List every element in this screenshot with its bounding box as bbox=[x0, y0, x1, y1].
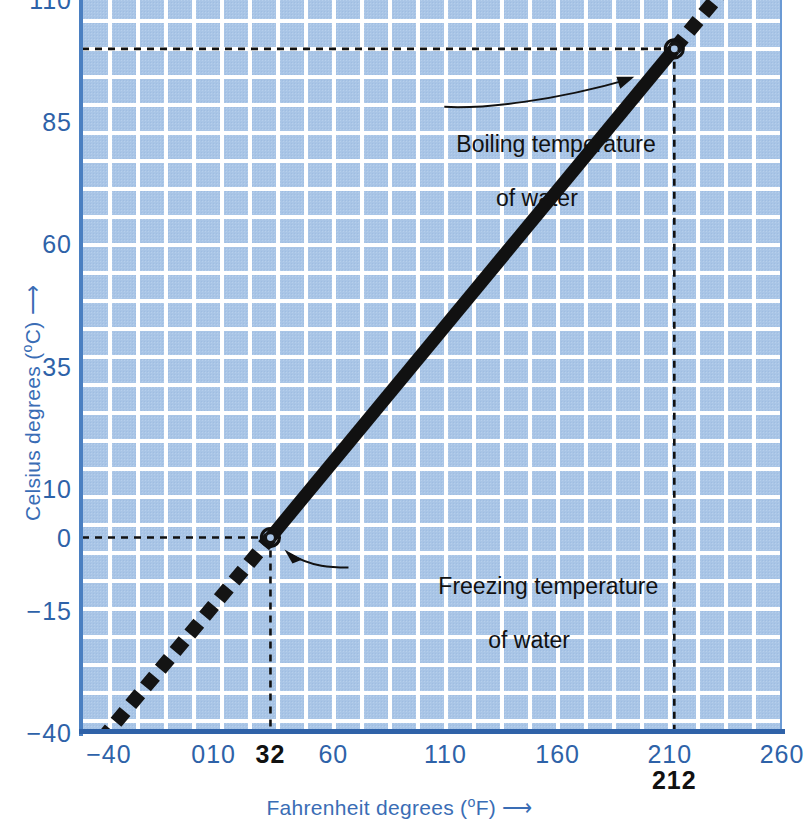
leader-boiling-arrowhead bbox=[616, 77, 634, 89]
x-axis-tick-10: 10 bbox=[206, 740, 236, 769]
annotation-freezing-line1: Freezing temperature bbox=[438, 573, 658, 599]
y-axis-title-tail: C) bbox=[21, 315, 44, 344]
plot-area: Boiling temperature of water Freezing te… bbox=[82, 0, 782, 733]
x-axis-unit-degree: o bbox=[467, 794, 475, 810]
x-axis-title: Fahrenheit degrees (oF) ⟶ bbox=[0, 794, 799, 820]
x-axis-tick-32: 32 bbox=[256, 740, 286, 769]
y-axis-line bbox=[79, 0, 83, 736]
marker-boiling-center bbox=[671, 45, 678, 52]
annotation-boiling: Boiling temperature of water bbox=[418, 104, 656, 267]
y-axis-title-text: Celsius degrees ( bbox=[21, 352, 44, 521]
x-axis-tick-0: 0 bbox=[191, 740, 206, 769]
annotation-freezing-line2: of water bbox=[400, 627, 658, 654]
x-axis-arrow-icon: ⟶ bbox=[502, 796, 532, 819]
y-axis-tick-neg40: −40 bbox=[0, 719, 72, 748]
y-axis-unit-degree: o bbox=[19, 344, 35, 352]
x-axis-tick-60: 60 bbox=[318, 740, 348, 769]
x-axis-tick-160: 160 bbox=[535, 740, 580, 769]
y-axis-tick-neg15: −15 bbox=[0, 596, 72, 625]
x-axis-tick-below-212: 212 bbox=[652, 766, 697, 795]
marker-freezing-center bbox=[267, 534, 274, 541]
annotation-freezing: Freezing temperature of water bbox=[400, 546, 658, 709]
x-axis-title-tail: F) bbox=[476, 796, 503, 819]
x-axis-title-text: Fahrenheit degrees ( bbox=[266, 796, 467, 819]
y-axis-tick-110: 110 bbox=[0, 0, 72, 15]
y-axis-tick-85: 85 bbox=[0, 108, 72, 137]
x-axis-tick-260: 260 bbox=[760, 740, 804, 769]
x-axis-line bbox=[79, 729, 785, 734]
x-axis-tick-210: 210 bbox=[647, 740, 692, 769]
annotation-boiling-line1: Boiling temperature bbox=[456, 131, 655, 157]
y-axis-title: Celsius degrees (oC) ⟶ bbox=[19, 253, 45, 553]
annotation-boiling-line2: of water bbox=[418, 185, 656, 212]
series-extrapolated-low bbox=[86, 538, 270, 733]
plot-right-edge bbox=[780, 0, 782, 733]
y-axis-arrow-icon: ⟶ bbox=[21, 285, 44, 315]
leader-freezing-arrowhead bbox=[284, 550, 302, 564]
x-axis-tick-110: 110 bbox=[424, 740, 467, 769]
leader-boiling bbox=[444, 79, 630, 107]
x-axis-tick-neg40: −40 bbox=[86, 740, 131, 769]
